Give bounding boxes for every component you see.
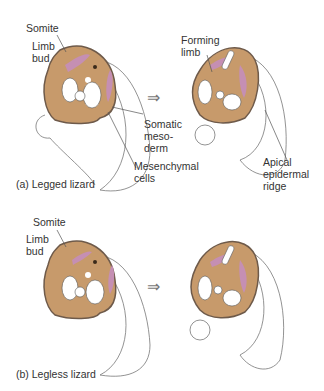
label-limb-bud: Limb bud: [26, 233, 49, 257]
label-somatic-mesoderm: Somatic meso- derm: [144, 118, 182, 154]
embryo-a-early: [36, 46, 150, 191]
caption-legged-lizard: (a) Legged lizard: [16, 178, 95, 190]
label-forming-limb: Forming limb: [181, 34, 220, 58]
label-somite: Somite: [26, 22, 59, 34]
label-mesenchymal-cells: Mesenchymal cells: [134, 160, 199, 184]
arrow-icon: ⇒: [147, 281, 160, 293]
caption-legless-lizard: (b) Legless lizard: [16, 368, 96, 380]
label-apical-epidermal-ridge: Apical epidermal ridge: [263, 156, 309, 192]
arrow-icon: ⇒: [147, 92, 160, 104]
label-somite: Somite: [33, 216, 66, 228]
label-limb-bud: Limb bud: [32, 40, 55, 64]
embryo-b-late: [190, 242, 284, 369]
embryo-b-early: [44, 241, 150, 376]
